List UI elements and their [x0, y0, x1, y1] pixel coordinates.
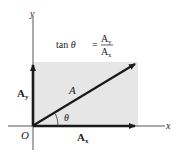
- theta-label: θ: [64, 112, 69, 123]
- formula-lhs: tan θ: [56, 39, 76, 50]
- vector-diagram: y x O A θ Ay Ax tan θ = Ay Ax: [0, 0, 179, 159]
- origin-label: O: [21, 129, 29, 141]
- formula-numerator: Ay: [101, 33, 111, 45]
- ax-label: Ax: [77, 131, 89, 145]
- y-axis-label: y: [29, 8, 35, 19]
- formula-denominator: Ax: [101, 46, 111, 58]
- formula-equals: =: [92, 39, 98, 50]
- tan-formula: tan θ = Ay Ax: [56, 33, 113, 58]
- x-axis-label: x: [165, 120, 171, 131]
- vector-a-label: A: [68, 84, 76, 96]
- ay-label: Ay: [17, 87, 29, 101]
